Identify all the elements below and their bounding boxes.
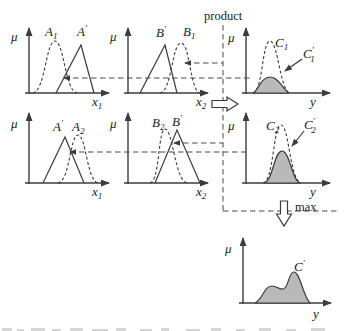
level-arrowhead-rule2-b — [173, 140, 180, 145]
label-c2-prime: C′2 — [304, 116, 316, 135]
fuzzy-inference-figure: μ A1 A′ x1 μ B′ B1 x2 μ C1 C′1 μ A′ A2 x… — [0, 0, 347, 331]
label-x1: x1 — [91, 184, 102, 201]
mu-label: μ — [109, 116, 117, 131]
label-x2: x2 — [195, 184, 207, 201]
label-y: y — [308, 94, 316, 109]
label-c2: C2 — [266, 118, 280, 135]
curve-a-prime — [56, 45, 94, 93]
plot-aggregate-y: μ C′ y — [224, 238, 331, 321]
mu-label: μ — [227, 118, 235, 133]
curve-a2 — [58, 135, 98, 183]
implication-right-block-arrow — [212, 97, 238, 111]
mu-label: μ — [224, 241, 232, 256]
label-y: y — [311, 306, 319, 321]
label-b1: B1 — [183, 24, 195, 41]
level-arrowhead-rule1-b — [184, 60, 191, 65]
label-b-prime: B′ — [156, 24, 167, 40]
label-c1-prime: C′1 — [303, 45, 315, 64]
c1-prime-pointer-arrow — [285, 59, 302, 71]
curve-b2 — [150, 129, 187, 183]
curve-b-prime — [155, 130, 200, 183]
operators: product max — [204, 9, 317, 226]
max-label: max — [295, 200, 317, 214]
label-a-prime: A′ — [52, 118, 64, 134]
curve-a-prime — [43, 137, 84, 183]
plot-rule1-x2: μ B′ B1 x2 — [109, 24, 208, 111]
level-arrowhead-rule1-a — [63, 75, 70, 80]
product-label: product — [204, 9, 243, 23]
label-a2: A2 — [71, 119, 85, 136]
plot-rule2-x2: μ B2 B′ x2 — [109, 113, 208, 201]
plot-rule2-y: μ C2 C′2 — [227, 113, 330, 184]
curve-c2-prime-filled — [264, 151, 300, 183]
curve-a1 — [33, 41, 77, 93]
curve-c-prime-filled — [255, 272, 310, 303]
mu-label: μ — [10, 116, 18, 131]
fuzzy-inference-diagram: μ A1 A′ x1 μ B′ B1 x2 μ C1 C′1 μ A′ A2 x… — [0, 0, 347, 331]
label-a-prime: A′ — [76, 23, 88, 39]
label-b2: B2 — [152, 115, 165, 132]
label-b-prime: B′ — [172, 113, 183, 129]
label-c1: C1 — [275, 35, 288, 52]
mu-label: μ — [227, 30, 235, 45]
y-axis-labels: y y — [308, 94, 316, 199]
label-x2: x2 — [195, 94, 207, 111]
plot-rule1-x1: μ A1 A′ x1 — [10, 23, 109, 111]
plot-rule1-y: μ C1 C′1 — [227, 28, 330, 94]
label-y: y — [308, 184, 316, 199]
mu-label: μ — [109, 29, 117, 44]
curve-c1-prime-filled — [253, 77, 289, 93]
label-a1: A1 — [44, 24, 57, 41]
label-x1: x1 — [91, 94, 102, 111]
mu-label: μ — [10, 29, 18, 44]
plot-rule2-x1: μ A′ A2 x1 — [10, 113, 109, 201]
c2-prime-pointer-arrow — [292, 131, 304, 146]
label-c-prime: C′ — [294, 258, 306, 274]
max-down-block-arrow — [277, 201, 292, 226]
